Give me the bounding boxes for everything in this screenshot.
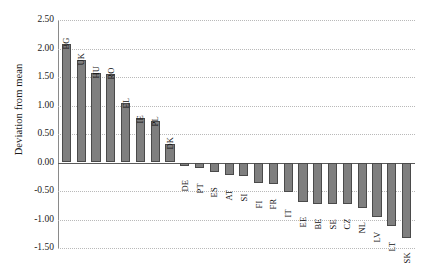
bar[interactable] <box>328 163 337 204</box>
bar-group[interactable]: SI <box>239 20 248 248</box>
bar-category-label: EL <box>121 97 130 108</box>
bar-group[interactable]: BG <box>62 20 71 248</box>
bar[interactable] <box>254 163 263 184</box>
y-tick-label: 2.50 <box>14 15 54 25</box>
bar[interactable] <box>372 163 381 217</box>
bar-group[interactable]: UK <box>77 20 86 248</box>
bar[interactable] <box>284 163 293 193</box>
plot-area: 2.502.001.501.000.500.00-0.50-1.00-1.50 … <box>58 20 415 248</box>
bar[interactable] <box>151 121 160 162</box>
bar-group[interactable]: CZ <box>343 20 352 248</box>
bar[interactable] <box>106 74 115 163</box>
bar-category-label: BE <box>313 218 322 229</box>
bar-group[interactable]: AT <box>225 20 234 248</box>
bar-category-label: NL <box>358 222 367 234</box>
y-tick-label: 0.50 <box>14 129 54 139</box>
bar-group[interactable]: RO <box>106 20 115 248</box>
bar[interactable] <box>269 163 278 185</box>
bar-category-label: DE <box>180 180 189 192</box>
bar-category-label: SI <box>239 193 248 201</box>
bar-category-label: LT <box>387 242 396 252</box>
bar-category-label: PL <box>151 117 160 127</box>
bar-group[interactable]: IT <box>284 20 293 248</box>
bar-category-label: FR <box>269 199 278 210</box>
bar[interactable] <box>239 163 248 176</box>
bar[interactable] <box>91 73 100 162</box>
bar-group[interactable]: DK <box>165 20 174 248</box>
bar[interactable] <box>77 60 86 163</box>
bar-category-label: RO <box>106 67 115 79</box>
bar[interactable] <box>358 163 367 209</box>
bar-group[interactable]: DE <box>180 20 189 248</box>
bar-category-label: DK <box>165 137 174 150</box>
bar-group[interactable]: SK <box>402 20 411 248</box>
bar-category-label: UK <box>77 53 86 66</box>
bar[interactable] <box>387 163 396 227</box>
bar[interactable] <box>225 163 234 176</box>
y-tick-label: -0.50 <box>14 186 54 196</box>
bar-category-label: AT <box>225 190 234 201</box>
bar-category-label: ES <box>210 187 219 197</box>
bar-group[interactable]: NL <box>358 20 367 248</box>
bar[interactable] <box>62 44 71 163</box>
bar[interactable] <box>195 163 204 169</box>
bar[interactable] <box>136 118 145 162</box>
bar[interactable] <box>298 163 307 203</box>
bar-group[interactable]: PL <box>151 20 160 248</box>
bar-category-label: FI <box>254 201 263 209</box>
bar-category-label: IT <box>284 209 293 217</box>
bar-group[interactable]: IE <box>136 20 145 248</box>
bar[interactable] <box>121 103 130 163</box>
bar-category-label: SE <box>328 219 337 229</box>
bar-category-label: SK <box>402 253 411 264</box>
y-tick-label: 2.00 <box>14 44 54 54</box>
bar-category-label: EE <box>299 217 308 228</box>
y-tick-label: -1.50 <box>14 243 54 253</box>
bar-group[interactable]: LT <box>387 20 396 248</box>
bar-group[interactable]: HU <box>91 20 100 248</box>
bar-group[interactable]: LV <box>372 20 381 248</box>
bar-category-label: CZ <box>343 218 352 229</box>
y-tick-label: -1.00 <box>14 215 54 225</box>
bar-category-label: PT <box>195 183 204 193</box>
bar-group[interactable]: SE <box>328 20 337 248</box>
gridline <box>58 248 415 249</box>
bars-layer: BGUKHUROELIEPLDKDEPTESATSIFIFRITEEBESECZ… <box>59 20 415 248</box>
y-tick-label: 0.00 <box>14 158 54 168</box>
bar-group[interactable]: PT <box>195 20 204 248</box>
y-tick-label: 1.50 <box>14 72 54 82</box>
bar-category-label: BG <box>62 37 71 49</box>
bar[interactable] <box>210 163 219 172</box>
bar-group[interactable]: FR <box>269 20 278 248</box>
bar-group[interactable]: ES <box>210 20 219 248</box>
bar-category-label: HU <box>91 66 100 79</box>
bar[interactable] <box>180 163 189 166</box>
y-tick-label: 1.00 <box>14 101 54 111</box>
bar-category-label: LV <box>373 231 382 242</box>
bar[interactable] <box>402 163 411 239</box>
bar-group[interactable]: FI <box>254 20 263 248</box>
bar-category-label: IE <box>136 115 145 123</box>
bar-group[interactable]: EE <box>298 20 307 248</box>
bar-group[interactable]: EL <box>121 20 130 248</box>
bar[interactable] <box>343 163 352 205</box>
bar-group[interactable]: BE <box>313 20 322 248</box>
bar-chart: Deviation from mean 2.502.001.501.000.50… <box>0 0 433 277</box>
bar[interactable] <box>313 163 322 204</box>
